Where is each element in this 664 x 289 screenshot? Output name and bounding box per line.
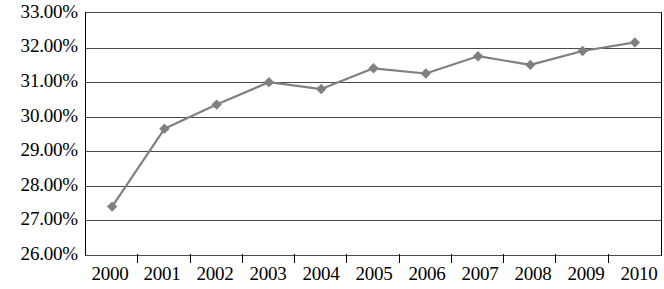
data-point-marker	[630, 37, 640, 47]
y-axis: 33.00% 32.00% 31.00% 30.00% 29.00% 28.00…	[0, 0, 82, 289]
series-markers	[107, 37, 640, 212]
plot-area	[85, 12, 662, 256]
y-tick-label: 33.00%	[21, 2, 78, 21]
y-tick-label: 31.00%	[21, 71, 78, 90]
x-tick-label: 2003	[249, 262, 286, 286]
x-tick-label: 2006	[408, 262, 445, 286]
x-axis: 2000 2001 2002 2003 2004 2005 2006 2007 …	[0, 262, 664, 289]
data-point-marker	[211, 99, 221, 109]
x-tick-label: 2005	[355, 262, 392, 286]
y-tick-label: 28.00%	[21, 175, 78, 194]
line-chart: 33.00% 32.00% 31.00% 30.00% 29.00% 28.00…	[0, 0, 664, 289]
y-tick-label: 27.00%	[21, 209, 78, 228]
data-point-marker	[525, 60, 535, 70]
x-tick-label: 2008	[514, 262, 551, 286]
data-point-marker	[421, 68, 431, 78]
data-point-marker	[368, 63, 378, 73]
data-point-marker	[316, 84, 326, 94]
x-tick-label: 2007	[461, 262, 498, 286]
x-tick-label: 2009	[567, 262, 604, 286]
x-tick-label: 2010	[620, 262, 657, 286]
x-tick-label: 2001	[143, 262, 180, 286]
y-tick-label: 32.00%	[21, 36, 78, 55]
y-tick-label: 29.00%	[21, 140, 78, 159]
x-tick-label: 2002	[196, 262, 233, 286]
data-point-marker	[473, 51, 483, 61]
data-point-marker	[577, 46, 587, 56]
y-tick-label: 26.00%	[21, 244, 78, 263]
data-series	[86, 13, 661, 255]
y-tick-label: 30.00%	[21, 106, 78, 125]
x-tick-label: 2004	[302, 262, 339, 286]
data-point-marker	[264, 77, 274, 87]
x-tick-label: 2000	[91, 262, 128, 286]
